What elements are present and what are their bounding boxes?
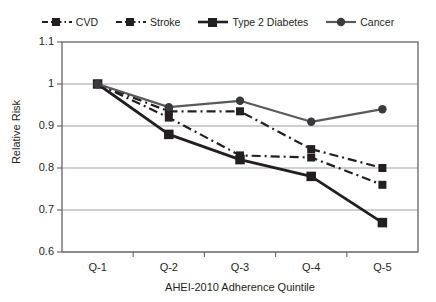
y-axis-label: Relative Risk [10,72,22,192]
data-point [307,118,315,126]
data-point [93,80,101,88]
data-point [378,105,386,113]
y-tick-label: 0.8 [0,162,54,173]
data-point [307,145,315,153]
y-tick-label: 1.1 [0,36,54,47]
x-tick-marks [57,42,347,257]
data-point [164,130,174,140]
data-point [165,103,173,111]
data-point [378,218,388,228]
plot-border [62,42,418,252]
data-point [236,97,244,105]
x-tick-label: Q-2 [139,262,199,273]
x-tick-label: Q-1 [68,262,128,273]
data-point [235,155,245,165]
x-tick-label: Q-3 [210,262,270,273]
y-tick-label: 0.6 [0,246,54,257]
data-point [306,172,316,182]
data-point [307,154,315,162]
chart-figure: CVD Stroke Type 2 Diabetes Cancer [0,0,436,302]
data-point [378,164,386,172]
data-series-layer [93,79,387,227]
data-point [165,114,173,122]
y-tick-label: 0.7 [0,204,54,215]
chart-plot [0,0,436,302]
data-point [378,181,386,189]
x-tick-label: Q-5 [352,262,412,273]
plot-frame [62,42,418,252]
x-tick-label: Q-4 [281,262,341,273]
y-tick-label: 0.9 [0,120,54,131]
y-tick-label: 1 [0,78,54,89]
data-point [236,107,244,115]
x-axis-label: AHEI-2010 Adherence Quintile [62,281,418,293]
